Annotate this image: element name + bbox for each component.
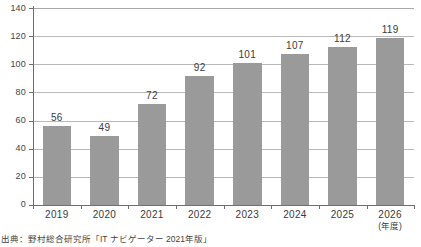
x-tick-label-2025: 2025 bbox=[319, 209, 367, 221]
x-tick-label-2024: 2024 bbox=[271, 209, 319, 221]
bar-2024[interactable] bbox=[281, 54, 310, 205]
y-tick-label-0: 0 bbox=[0, 200, 26, 209]
x-tick-label-slot-2021: 2021 bbox=[128, 209, 176, 221]
x-tick-label-slot-2022: 2022 bbox=[176, 209, 224, 221]
x-axis-unit-note: (年度) bbox=[366, 221, 414, 232]
bar-2022[interactable] bbox=[185, 76, 214, 206]
bar-slot-2021: 72 bbox=[128, 8, 176, 205]
y-tick-label-80: 80 bbox=[0, 88, 26, 97]
bar-label-2026: 119 bbox=[366, 25, 414, 35]
bar-series: 56 49 72 92 101 107 bbox=[33, 8, 414, 205]
x-tick-label-2023: 2023 bbox=[224, 209, 272, 221]
x-tick-mark-8 bbox=[414, 205, 415, 209]
x-tick-label-2022: 2022 bbox=[176, 209, 224, 221]
source-caption: 出典：野村総合研究所「IT ナビゲーター 2021年版」 bbox=[1, 234, 212, 245]
bar-2021[interactable] bbox=[138, 104, 167, 205]
plot-area: 140 120 100 80 60 40 20 0 bbox=[0, 0, 421, 212]
y-tick-label-140: 140 bbox=[0, 4, 26, 13]
bar-chart-figure: 140 120 100 80 60 40 20 0 bbox=[0, 0, 421, 247]
bar-2025[interactable] bbox=[328, 47, 357, 205]
y-tick-label-40: 40 bbox=[0, 144, 26, 153]
bar-2023[interactable] bbox=[233, 63, 262, 205]
x-tick-label-slot-2020: 2020 bbox=[81, 209, 129, 221]
bar-slot-2019: 56 bbox=[33, 8, 81, 205]
bar-2019[interactable] bbox=[43, 126, 72, 205]
x-tick-label-slot-2024: 2024 bbox=[271, 209, 319, 221]
x-tick-label-slot-2025: 2025 bbox=[319, 209, 367, 221]
bar-2026[interactable] bbox=[376, 38, 405, 205]
bar-slot-2025: 112 bbox=[319, 8, 367, 205]
bar-slot-2023: 101 bbox=[224, 8, 272, 205]
y-axis-tick-labels: 140 120 100 80 60 40 20 0 bbox=[0, 0, 26, 212]
bar-label-2024: 107 bbox=[271, 41, 319, 51]
bar-label-2021: 72 bbox=[128, 91, 176, 101]
bar-slot-2026: 119 bbox=[366, 8, 414, 205]
bar-slot-2024: 107 bbox=[271, 8, 319, 205]
bar-slot-2020: 49 bbox=[81, 8, 129, 205]
x-tick-label-slot-2023: 2023 bbox=[224, 209, 272, 221]
x-tick-label-2019: 2019 bbox=[33, 209, 81, 221]
x-tick-label-2020: 2020 bbox=[81, 209, 129, 221]
bar-label-2022: 92 bbox=[176, 63, 224, 73]
bar-label-2020: 49 bbox=[81, 123, 129, 133]
bar-slot-2022: 92 bbox=[176, 8, 224, 205]
x-tick-label-slot-2026: 2026 (年度) bbox=[366, 209, 414, 232]
x-tick-label-2021: 2021 bbox=[128, 209, 176, 221]
x-tick-label-slot-2019: 2019 bbox=[33, 209, 81, 221]
bar-label-2023: 101 bbox=[224, 50, 272, 60]
y-tick-label-60: 60 bbox=[0, 116, 26, 125]
bar-2020[interactable] bbox=[90, 136, 119, 205]
x-tick-label-2026: 2026 bbox=[366, 209, 414, 221]
y-axis-line bbox=[33, 6, 34, 207]
y-tick-label-100: 100 bbox=[0, 60, 26, 69]
bar-label-2019: 56 bbox=[33, 113, 81, 123]
y-tick-label-20: 20 bbox=[0, 172, 26, 181]
bar-label-2025: 112 bbox=[319, 34, 367, 44]
y-tick-label-120: 120 bbox=[0, 32, 26, 41]
